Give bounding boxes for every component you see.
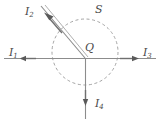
current-junction-diagram: I1 I2 I3 I4 S Q <box>0 0 159 122</box>
label-surface-S: S <box>95 4 103 15</box>
diagram-canvas <box>0 0 159 122</box>
arrowhead-I3 <box>120 56 139 61</box>
label-current-I3: I3 <box>143 47 152 58</box>
label-current-I1: I1 <box>9 47 18 58</box>
wire-I2-secondary <box>45 5 88 57</box>
label-current-I2: I2 <box>25 6 34 17</box>
wire-I2 <box>41 6 85 58</box>
label-current-I4: I4 <box>95 98 104 109</box>
label-junction-Q: Q <box>85 42 94 53</box>
arrowhead-I4 <box>83 90 88 106</box>
arrowhead-I1 <box>20 56 36 61</box>
